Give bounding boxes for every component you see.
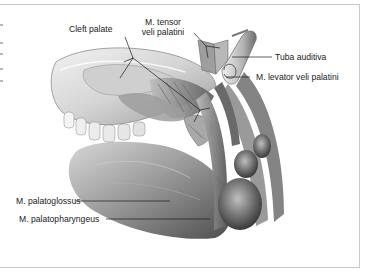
tongue	[69, 142, 232, 239]
label-palatopharyngeus: M. palatopharyngeus	[19, 214, 99, 224]
label-cleft-palate: Cleft palate	[69, 24, 112, 34]
label-levator-veli-palatini: M. levator veli palatini	[256, 72, 339, 82]
label-tensor-line1: M. tensor	[133, 17, 193, 27]
label-tensor-veli-palatini: M. tensor veli palatini	[133, 17, 193, 37]
label-palatoglossus: M. palatoglossus	[16, 196, 81, 206]
label-tuba-auditiva: Tuba auditiva	[275, 52, 326, 62]
anatomy-illustration	[0, 0, 373, 271]
label-tensor-line2: veli palatini	[133, 27, 193, 37]
